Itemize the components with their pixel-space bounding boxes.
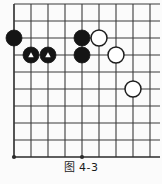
white-stone[interactable] (125, 81, 141, 97)
black-stone[interactable] (40, 47, 56, 63)
stone-disc (74, 30, 90, 46)
white-stone[interactable] (91, 30, 107, 46)
stones-layer[interactable] (6, 30, 141, 97)
stone-disc (6, 30, 22, 46)
star-point (12, 155, 16, 159)
star-point (80, 155, 84, 159)
figure-container: 图 4-3 (0, 0, 162, 184)
stone-disc (125, 81, 141, 97)
figure-caption: 图 4-3 (0, 161, 162, 175)
black-stone[interactable] (74, 30, 90, 46)
white-stone[interactable] (108, 47, 124, 63)
go-board[interactable] (0, 0, 162, 160)
stone-disc (74, 47, 90, 63)
stone-disc (108, 47, 124, 63)
black-stone[interactable] (6, 30, 22, 46)
black-stone[interactable] (74, 47, 90, 63)
stone-disc (91, 30, 107, 46)
go-board-canvas[interactable] (0, 0, 162, 160)
black-stone[interactable] (23, 47, 39, 63)
grid-lines (14, 4, 160, 157)
